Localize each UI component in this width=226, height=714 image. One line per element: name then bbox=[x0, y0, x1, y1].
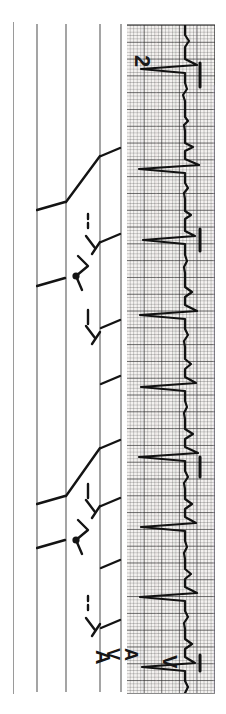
tier-label-group: A A V V bbox=[0, 0, 226, 714]
tier-label-v: V bbox=[160, 655, 180, 668]
ecg-figure: 2 bbox=[0, 0, 226, 714]
tier-label-av-line2: V bbox=[104, 648, 122, 661]
tier-label-av-line1: A bbox=[122, 648, 140, 661]
tier-label-av: A V bbox=[104, 648, 140, 661]
